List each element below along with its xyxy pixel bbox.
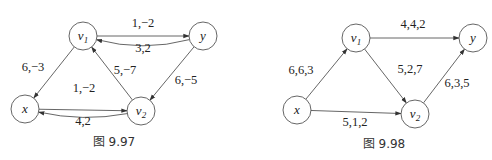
edge-x-v2 <box>39 109 127 111</box>
edge-v1-v2 <box>365 49 407 103</box>
edge-x-v2 <box>311 110 401 113</box>
edge-label-x-v2: 5,1,2 <box>343 115 368 129</box>
figure-caption: 图 9.98 <box>363 137 406 151</box>
node-label: x <box>293 102 300 117</box>
figure-9-98: 4,4,26,6,35,2,76,3,55,1,2v1yxv2图 9.98 <box>283 17 487 151</box>
node-v1: v1 <box>69 22 97 50</box>
node-v2: v2 <box>127 97 155 125</box>
node-label: y <box>198 28 206 43</box>
figure-caption: 图 9.97 <box>93 135 136 149</box>
edge-label-x-v1: 6,6,3 <box>289 63 314 77</box>
node-y: y <box>189 22 217 50</box>
edge-label-y-v2: 6,−5 <box>175 73 198 87</box>
node-label: y <box>468 30 476 45</box>
edge-label-v2-y: 6,3,5 <box>445 76 470 90</box>
node-v1: v1 <box>342 24 370 52</box>
node-x: x <box>11 95 39 123</box>
edge-label-y-v1: 1,−2 <box>132 16 155 30</box>
edge-label-v1-y: 3,2 <box>135 41 151 55</box>
edge-label-v2-v1: 5,−7 <box>114 63 137 77</box>
node-y: y <box>459 24 487 52</box>
edge-label-x-v2: 4,2 <box>75 114 91 128</box>
edge-label-v1-v2: 5,2,7 <box>398 62 423 76</box>
figure-9-97: 1,−23,26,−35,−76,−51,−24,2v1yxv2图 9.97 <box>11 16 217 149</box>
node-v2: v2 <box>401 100 429 128</box>
edge-label-v2-x: 1,−2 <box>73 81 96 95</box>
diagram-canvas: 1,−23,26,−35,−76,−51,−24,2v1yxv2图 9.97 4… <box>0 0 492 160</box>
node-x: x <box>283 96 311 124</box>
edge-label-v1-x: 6,−3 <box>22 60 45 74</box>
edge-label-v1-y: 4,4,2 <box>401 17 426 31</box>
node-label: x <box>21 101 28 116</box>
